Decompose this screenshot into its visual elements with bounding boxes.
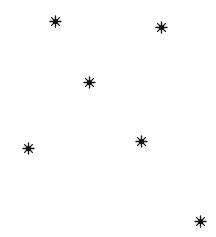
star-icon bbox=[49, 15, 62, 28]
star-icon bbox=[83, 76, 96, 89]
star-icon bbox=[194, 215, 207, 228]
star-field bbox=[0, 0, 216, 237]
star-icon bbox=[135, 135, 148, 148]
star-icon bbox=[155, 21, 168, 34]
star-icon bbox=[22, 142, 35, 155]
